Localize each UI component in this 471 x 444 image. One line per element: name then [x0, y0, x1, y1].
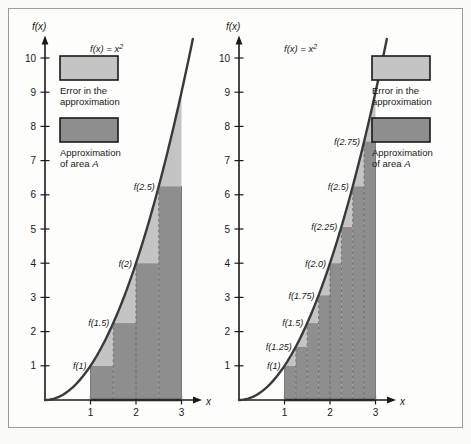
point-label: f(1): [73, 361, 87, 371]
approx-legend-line1: Approximation: [372, 147, 433, 158]
point-label: f(2.0): [305, 259, 326, 269]
y-tick-label: 9: [30, 87, 36, 98]
error-swatch: [372, 56, 430, 80]
approximation-rect: [330, 263, 341, 400]
x-tick-label: 2: [327, 407, 333, 418]
figure-root: f(x)12345678910x123f(x) = x2f(1)f(1.5)f(…: [0, 0, 471, 444]
y-tick-label: 4: [30, 258, 36, 269]
point-label: f(2.5): [134, 182, 155, 192]
approx-legend-line2: of area A: [372, 158, 411, 169]
error-legend-line1: Error in the: [372, 85, 419, 96]
approximation-rect: [364, 141, 375, 400]
approx-legend-line2: of area A: [60, 158, 99, 169]
y-tick-label: 7: [224, 155, 230, 166]
x-tick-label: 3: [179, 407, 185, 418]
x-axis-label: x: [399, 396, 406, 407]
y-tick-label: 5: [30, 224, 36, 235]
exponent: 2: [312, 43, 317, 50]
point-label: f(1.25): [266, 342, 292, 352]
y-tick-label: 8: [30, 121, 36, 132]
point-label: f(1): [267, 361, 281, 371]
approximation-rect: [159, 186, 182, 400]
y-axis-arrow: [42, 35, 49, 44]
x-tick-label: 2: [133, 407, 139, 418]
x-tick-label: 1: [282, 407, 288, 418]
area-symbol: A: [403, 158, 410, 169]
y-tick-label: 1: [30, 360, 36, 371]
approximation-rect: [307, 323, 318, 400]
x-tick-label: 3: [373, 407, 379, 418]
y-tick-label: 6: [30, 189, 36, 200]
approximation-rect: [296, 347, 307, 400]
y-tick-label: 5: [224, 224, 230, 235]
point-label: f(2.25): [311, 222, 337, 232]
approximation-rect: [353, 186, 364, 400]
approximation-rect: [285, 366, 296, 400]
point-label: f(2.5): [328, 182, 349, 192]
y-tick-label: 6: [224, 189, 230, 200]
y-tick-label: 9: [224, 87, 230, 98]
point-label: f(2.75): [334, 137, 360, 147]
point-label: f(1.5): [282, 318, 303, 328]
approximation-rect: [341, 227, 352, 400]
y-tick-label: 2: [30, 326, 36, 337]
y-tick-label: 2: [224, 326, 230, 337]
error-swatch: [60, 56, 118, 80]
y-tick-label: 10: [25, 53, 37, 64]
y-axis-label: f(x): [32, 21, 46, 32]
curve-equation-label: f(x) = x2: [284, 43, 317, 55]
exponent: 2: [118, 43, 123, 50]
right-chart-svg: f(x)12345678910x123f(x) = x2f(1)f(1.25)f…: [186, 14, 458, 422]
x-tick-label: 1: [88, 407, 94, 418]
error-legend-line2: approximation: [372, 96, 432, 107]
y-tick-label: 4: [224, 258, 230, 269]
point-label: f(1.5): [88, 318, 109, 328]
y-tick-label: 3: [224, 292, 230, 303]
approx-legend-line1: Approximation: [60, 147, 121, 158]
right-chart-panel: f(x)12345678910x123f(x) = x2f(1)f(1.25)f…: [186, 14, 458, 422]
approximation-rect: [319, 295, 330, 400]
point-label: f(1.75): [289, 291, 315, 301]
approximation-rect: [91, 366, 114, 400]
y-tick-label: 7: [30, 155, 36, 166]
y-tick-label: 3: [30, 292, 36, 303]
error-legend-line1: Error in the: [60, 85, 107, 96]
x-axis-arrow: [387, 397, 396, 404]
point-label: f(2): [119, 259, 133, 269]
curve-equation-label: f(x) = x2: [90, 43, 123, 55]
approximation-rect: [113, 323, 136, 400]
y-tick-label: 1: [224, 360, 230, 371]
y-tick-label: 8: [224, 121, 230, 132]
area-symbol: A: [91, 158, 98, 169]
y-axis-label: f(x): [226, 21, 240, 32]
approximation-rect: [136, 263, 159, 400]
approximation-swatch: [372, 118, 430, 142]
error-legend-line2: approximation: [60, 96, 120, 107]
y-axis-arrow: [236, 35, 243, 44]
y-tick-label: 10: [219, 53, 231, 64]
approximation-swatch: [60, 118, 118, 142]
